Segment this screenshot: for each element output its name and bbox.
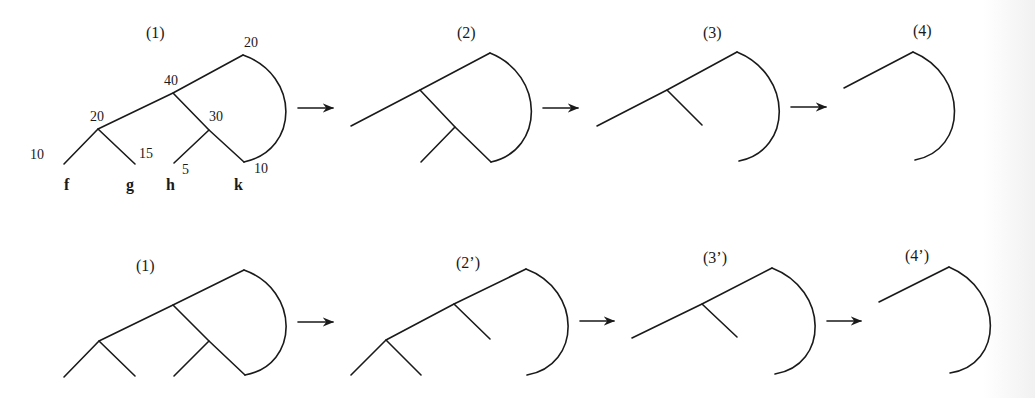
tree-stage-4 — [844, 52, 955, 160]
tree-stage-4 — [879, 267, 990, 373]
tree-edge — [949, 267, 990, 373]
tree-edge — [632, 268, 772, 338]
stage-label: (3) — [703, 25, 722, 41]
edge-weight-label: 40 — [164, 74, 178, 88]
edge-weight-label: 20 — [244, 36, 258, 50]
tree-edge — [454, 304, 490, 339]
stage-label: (2) — [457, 25, 476, 41]
stage-label: (2’) — [456, 255, 480, 271]
tree-edge — [386, 340, 421, 375]
tree-edge — [243, 55, 286, 162]
tree-edge — [173, 93, 244, 162]
tree-edge — [526, 269, 568, 375]
stage-label: (4’) — [905, 248, 929, 264]
diagram-canvas: (1)204020301015510fghk(2)(3)(4)(1)(2’)(3… — [0, 0, 1035, 398]
edge-weight-label: 10 — [254, 162, 268, 176]
edge-weight-label: 15 — [139, 147, 153, 161]
tree-edge — [737, 52, 779, 161]
tree-edge — [772, 268, 815, 374]
top-row — [64, 52, 955, 164]
tree-stage-2 — [351, 53, 531, 162]
tree-edge — [421, 127, 455, 162]
tree-edge — [64, 270, 244, 377]
tree-edge — [98, 129, 135, 164]
tree-edge — [173, 305, 245, 375]
tree-stage-2 — [351, 269, 568, 375]
bottom-row — [64, 267, 990, 377]
tree-edge — [490, 53, 531, 162]
tree-edge — [597, 52, 737, 126]
stage-label: (4) — [913, 23, 932, 39]
leaf-node-label: k — [234, 178, 243, 192]
stage-label: (1) — [136, 258, 155, 274]
tree-edge — [244, 270, 286, 375]
edge-weight-label: 10 — [30, 148, 44, 162]
leaf-node-label: h — [166, 178, 175, 192]
edge-weight-label: 5 — [182, 163, 189, 177]
tree-edge — [913, 52, 955, 160]
stage-label: (1) — [146, 25, 165, 41]
leaf-node-label: f — [64, 178, 69, 192]
tree-edge — [879, 267, 949, 302]
edge-weight-label: 30 — [209, 110, 223, 124]
tree-edge — [174, 341, 209, 376]
tree-edge — [174, 130, 209, 163]
tree-stage-1 — [64, 270, 286, 377]
tree-edge — [667, 90, 702, 125]
tree-stage-3 — [597, 52, 779, 161]
tree-edge — [702, 304, 737, 337]
tree-edge — [844, 52, 913, 88]
tree-edges-layer — [0, 0, 1035, 398]
tree-edge — [99, 341, 135, 376]
tree-edge — [351, 269, 526, 375]
edge-weight-label: 20 — [90, 110, 104, 124]
stage-label: (3’) — [703, 250, 727, 266]
leaf-node-label: g — [126, 178, 134, 192]
tree-stage-3 — [632, 268, 815, 374]
